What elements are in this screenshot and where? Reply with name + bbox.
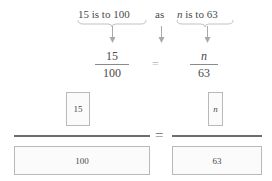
statement-right-phrase: n is to 63 bbox=[177, 8, 218, 21]
equation-equals-sign: = bbox=[152, 57, 159, 72]
bar-model-equals-sign: = bbox=[155, 128, 163, 143]
statement-right-rest: is to 63 bbox=[183, 8, 218, 20]
bar-model-left-numerator-box: 15 bbox=[66, 92, 90, 126]
fraction-right: n 63 bbox=[190, 49, 218, 80]
fraction-right-numerator: n bbox=[190, 49, 218, 63]
fraction-left: 15 100 bbox=[95, 49, 129, 80]
bar-model-left-denominator-box: 100 bbox=[14, 146, 150, 175]
arrow-down-middle-icon bbox=[157, 26, 166, 44]
bar-model-left-rule bbox=[14, 135, 150, 137]
bar-model-right-numerator-box: n bbox=[208, 92, 223, 126]
fraction-left-denominator: 100 bbox=[95, 66, 129, 80]
arrow-down-left-icon bbox=[108, 26, 117, 44]
fraction-left-numerator: 15 bbox=[95, 49, 129, 63]
fraction-right-bar bbox=[190, 64, 218, 65]
statement-connector: as bbox=[155, 8, 164, 21]
statement-left-phrase: 15 is to 100 bbox=[78, 8, 130, 21]
arrow-down-right-icon bbox=[203, 26, 212, 44]
bar-model-right-rule bbox=[172, 135, 262, 137]
bar-model-right-denominator-box: 63 bbox=[172, 146, 262, 175]
fraction-left-bar bbox=[95, 64, 129, 65]
fraction-right-denominator: 63 bbox=[190, 66, 218, 80]
proportion-diagram: 15 is to 100 as n is to 63 15 100 = n 63… bbox=[0, 0, 272, 181]
